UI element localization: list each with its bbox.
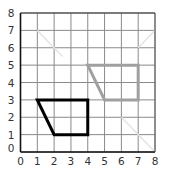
y-tick-label: 5	[8, 59, 15, 71]
y-tick-label: 6	[8, 42, 15, 54]
y-tick-label: 4	[8, 77, 15, 89]
y-tick-label: 2	[8, 111, 15, 123]
x-tick-label: 6	[118, 155, 125, 167]
y-tick-label: 3	[8, 94, 15, 106]
x-tick-label: 0	[17, 155, 24, 167]
x-tick-label: 3	[68, 155, 75, 167]
x-tick-label: 1	[34, 155, 41, 167]
y-tick-label: 8	[8, 7, 15, 19]
y-tick-label: 7	[8, 24, 15, 36]
x-tick-label: 5	[101, 155, 108, 167]
x-tick-label: 2	[51, 155, 58, 167]
x-tick-label: 4	[84, 155, 91, 167]
faint-guide-line	[37, 30, 62, 56]
coordinate-grid: 012345678012345678	[0, 0, 170, 169]
y-tick-label: 1	[8, 129, 15, 141]
faint-guide-line	[138, 30, 155, 47]
y-tick-label: 0	[8, 142, 15, 154]
x-tick-label: 8	[152, 155, 159, 167]
x-tick-label: 7	[135, 155, 142, 167]
